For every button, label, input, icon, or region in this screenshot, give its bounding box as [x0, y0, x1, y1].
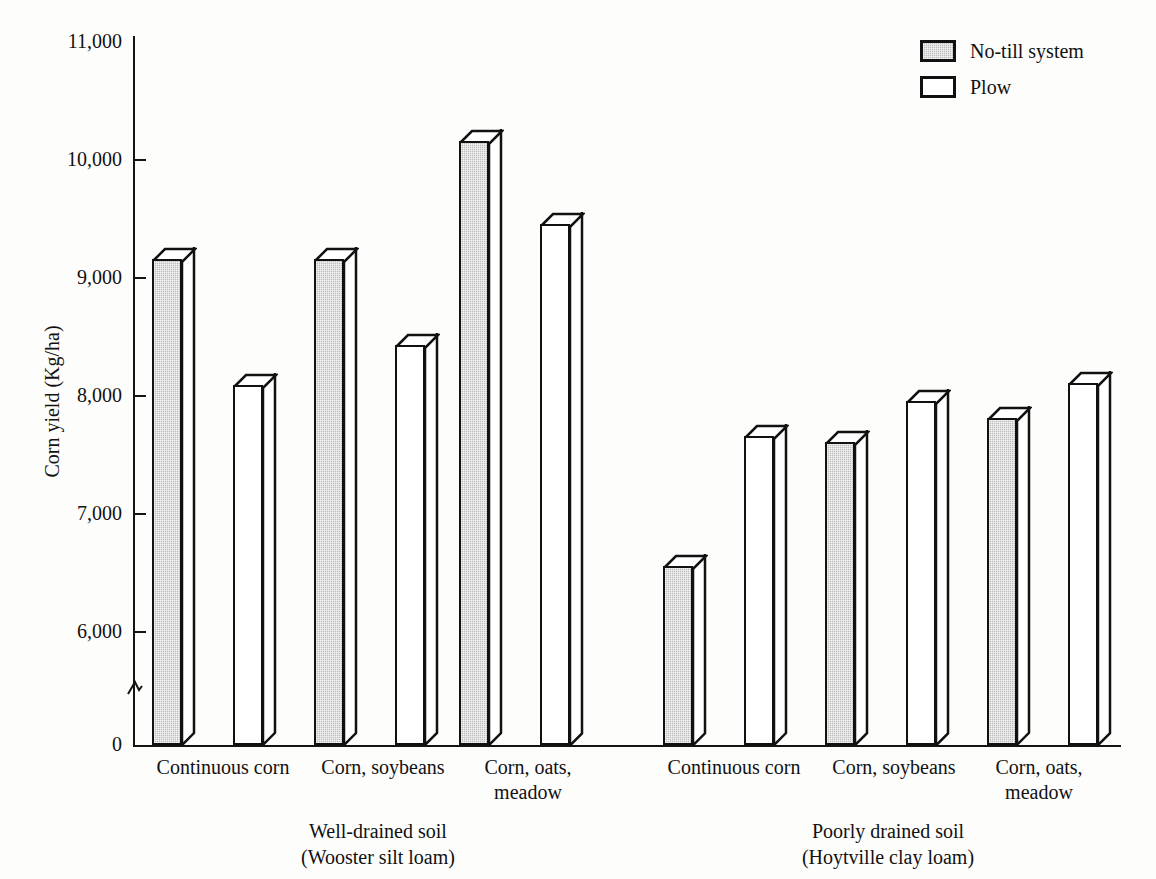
bar-side-face — [773, 424, 788, 746]
category-label-line: meadow — [418, 780, 638, 805]
y-axis-tick-label: 10,000 — [0, 149, 122, 169]
bar-no-till — [152, 247, 182, 745]
bar-plow — [233, 373, 263, 745]
bar-front-face — [395, 345, 425, 745]
bar-side-face — [343, 247, 358, 746]
legend-item-plow: Plow — [920, 72, 1084, 102]
y-axis-tick-label: 6,000 — [0, 621, 122, 641]
legend-label-plow: Plow — [970, 77, 1011, 97]
bar-front-face — [314, 259, 344, 745]
bar-plow — [395, 333, 425, 745]
soil-group-name: Poorly drained soil — [708, 818, 1068, 844]
category-label-line: meadow — [929, 780, 1149, 805]
chart-figure: 11,00010,0009,0008,0007,0006,0000 Corn y… — [0, 0, 1156, 879]
bar-side-face — [854, 430, 869, 746]
y-axis-tick — [133, 277, 146, 279]
y-axis-tick — [133, 513, 146, 515]
axis-break-icon — [126, 678, 144, 698]
legend: No-till system Plow — [920, 36, 1084, 108]
x-axis-category-label: Corn, oats,meadow — [418, 755, 638, 805]
legend-label-no-till: No-till system — [970, 41, 1084, 61]
soil-group-name: Well-drained soil — [198, 818, 558, 844]
y-axis-tick-label: 9,000 — [0, 267, 122, 287]
bar-no-till — [663, 554, 693, 745]
bar-side-face — [692, 554, 707, 746]
category-label-line: Corn, oats, — [418, 755, 638, 780]
bar-no-till — [987, 406, 1017, 745]
bar-front-face — [459, 141, 489, 745]
x-axis-line — [133, 745, 1121, 747]
bar-plow — [906, 389, 936, 746]
bar-front-face — [152, 259, 182, 745]
y-axis-tick-label: 11,000 — [0, 31, 122, 51]
bar-front-face — [663, 566, 693, 745]
bar-side-face — [424, 333, 439, 746]
bar-no-till — [459, 129, 489, 745]
bar-plow — [540, 212, 570, 746]
bar-side-face — [1097, 371, 1112, 746]
bar-plow — [744, 424, 774, 745]
y-axis-title: Corn yield (Kg/ha) — [41, 292, 64, 512]
bar-side-face — [262, 373, 277, 746]
y-axis-line — [133, 36, 135, 747]
bar-side-face — [569, 212, 584, 747]
bar-plow — [1068, 371, 1098, 745]
y-axis-tick-label: 0 — [0, 734, 122, 754]
soil-group-label: Well-drained soil(Wooster silt loam) — [198, 818, 558, 870]
soil-group-subtitle: (Wooster silt loam) — [198, 844, 558, 870]
bar-front-face — [1068, 383, 1098, 745]
bar-front-face — [744, 436, 774, 745]
bar-front-face — [540, 224, 570, 746]
bar-no-till — [825, 430, 855, 745]
plot-area: 11,00010,0009,0008,0007,0006,0000 Corn y… — [0, 0, 1156, 879]
bar-no-till — [314, 247, 344, 745]
bar-side-face — [488, 129, 503, 746]
bar-side-face — [1016, 406, 1031, 746]
y-axis-tick — [133, 395, 146, 397]
legend-swatch-plow-icon — [920, 76, 956, 98]
soil-group-label: Poorly drained soil(Hoytville clay loam) — [708, 818, 1068, 870]
y-axis-tick — [133, 159, 146, 161]
x-axis-category-label: Corn, oats,meadow — [929, 755, 1149, 805]
bar-side-face — [181, 247, 196, 746]
soil-group-subtitle: (Hoytville clay loam) — [708, 844, 1068, 870]
y-axis-tick — [133, 631, 146, 633]
legend-swatch-no-till-icon — [920, 40, 956, 62]
bar-side-face — [935, 389, 950, 747]
bar-front-face — [906, 401, 936, 746]
bar-front-face — [987, 418, 1017, 745]
legend-item-no-till: No-till system — [920, 36, 1084, 66]
bar-front-face — [233, 385, 263, 745]
category-label-line: Corn, oats, — [929, 755, 1149, 780]
bar-front-face — [825, 442, 855, 745]
